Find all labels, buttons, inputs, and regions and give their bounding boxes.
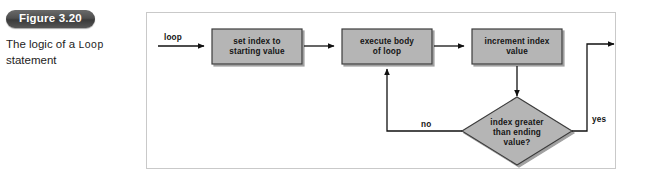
node-decision-line1: index greater [490,118,544,127]
edge-label-yes: yes [592,115,606,124]
edge-decision-no: no [387,69,462,131]
node-decision-line2: than ending [493,128,541,137]
figure-caption-text: The logic of a Loop statement [6,37,136,68]
node-execute-body-line1: execute body [360,37,414,46]
node-increment-line2: value [506,47,528,56]
edge-label-no: no [421,120,431,129]
node-decision-line3: value? [504,138,531,147]
figure-number-badge: Figure 3.20 [6,10,95,28]
caption-suffix: statement [6,54,57,66]
node-execute-body-line2: of loop [373,47,401,56]
edge-decision-yes: yes [572,44,614,131]
edge-entry-to-set-index: loop [158,33,204,46]
caption-prefix: The logic of a [6,38,78,50]
node-set-index-line1: set index to [233,37,280,46]
caption-keyword: Loop [78,39,103,51]
node-set-index-line2: starting value [229,47,285,56]
figure-caption-block: Figure 3.20 The logic of a Loop statemen… [6,8,138,68]
edge-label-loop: loop [164,33,182,42]
flowchart-diagram: loop set index to starting value execute… [146,12,616,169]
figure-page: Figure 3.20 The logic of a Loop statemen… [0,0,651,186]
node-increment-line1: increment index [484,37,549,46]
